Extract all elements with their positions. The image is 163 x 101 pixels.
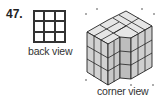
corner-view-label: corner view bbox=[97, 85, 148, 97]
